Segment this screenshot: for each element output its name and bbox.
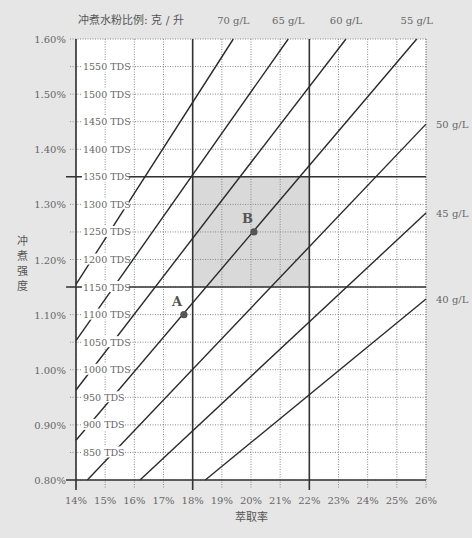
y-axis-title-char: 冲 xyxy=(17,234,28,248)
ratio-label: 45 g/L xyxy=(436,208,469,219)
tds-label: 850 TDS xyxy=(83,447,125,458)
tds-label: 1000 TDS xyxy=(83,364,131,375)
tds-label: 1050 TDS xyxy=(83,337,131,348)
y-axis-ticks: 0.80%0.90%1.00%1.10%1.20%1.30%1.40%1.50%… xyxy=(34,34,66,486)
tds-label: 1100 TDS xyxy=(83,309,131,320)
x-tick-label: 17% xyxy=(152,495,174,506)
x-tick-label: 26% xyxy=(415,495,437,506)
brewing-control-chart: 70 g/L65 g/L60 g/L55 g/L50 g/L45 g/L40 g… xyxy=(0,0,472,538)
x-tick-label: 14% xyxy=(65,495,87,506)
x-tick-label: 23% xyxy=(327,495,349,506)
y-axis-title-char: 煮 xyxy=(17,250,28,263)
x-tick-label: 21% xyxy=(269,495,291,506)
ratio-label: 65 g/L xyxy=(272,15,305,26)
ratio-axis-title: 冲煮水粉比例: 克 / 升 xyxy=(78,13,184,27)
x-tick-label: 18% xyxy=(182,495,204,506)
x-tick-label: 20% xyxy=(240,495,262,506)
tds-labels: 850 TDS900 TDS950 TDS1000 TDS1050 TDS110… xyxy=(82,61,131,458)
y-axis-title-char: 度 xyxy=(17,279,28,293)
tds-label: 1150 TDS xyxy=(83,282,131,293)
y-axis-title: 冲煮强度 xyxy=(17,234,28,293)
point-label: B xyxy=(242,211,253,226)
tds-label: 1250 TDS xyxy=(83,226,131,237)
x-axis-title: 萃取率 xyxy=(235,510,268,524)
y-tick-label: 1.10% xyxy=(34,310,66,321)
ratio-label: 50 g/L xyxy=(436,119,469,130)
y-tick-label: 1.20% xyxy=(34,255,66,266)
x-tick-label: 16% xyxy=(123,495,145,506)
ratio-label: 55 g/L xyxy=(401,15,434,26)
y-tick-label: 1.50% xyxy=(34,89,66,100)
ratio-label: 70 g/L xyxy=(217,15,250,26)
tds-label: 950 TDS xyxy=(83,392,125,403)
y-tick-label: 1.60% xyxy=(34,34,66,45)
x-tick-label: 19% xyxy=(211,495,233,506)
y-tick-label: 1.00% xyxy=(34,365,66,376)
x-tick-label: 24% xyxy=(357,495,379,506)
point-label: A xyxy=(171,294,183,309)
y-tick-label: 1.30% xyxy=(34,199,66,210)
ratio-label: 60 g/L xyxy=(330,15,363,26)
x-axis-ticks: 14%15%16%17%18%19%20%21%22%23%24%25%26% xyxy=(65,495,437,506)
tds-label: 1200 TDS xyxy=(83,254,131,265)
y-axis-title-char: 强 xyxy=(17,265,28,278)
data-point-a xyxy=(180,311,187,318)
x-tick-label: 22% xyxy=(298,495,320,506)
data-point-b xyxy=(250,228,257,235)
y-tick-label: 0.80% xyxy=(34,475,66,486)
y-tick-label: 1.40% xyxy=(34,144,66,155)
x-tick-label: 25% xyxy=(386,495,408,506)
tds-label: 1550 TDS xyxy=(83,61,131,72)
x-tick-label: 15% xyxy=(94,495,116,506)
tds-label: 1500 TDS xyxy=(83,89,131,100)
tds-label: 1450 TDS xyxy=(83,116,131,127)
ratio-label: 40 g/L xyxy=(436,294,469,305)
tds-label: 1350 TDS xyxy=(83,171,131,182)
y-tick-label: 0.90% xyxy=(34,420,66,431)
tds-label: 900 TDS xyxy=(83,419,125,430)
tds-label: 1300 TDS xyxy=(83,199,131,210)
tds-label: 1400 TDS xyxy=(83,144,131,155)
